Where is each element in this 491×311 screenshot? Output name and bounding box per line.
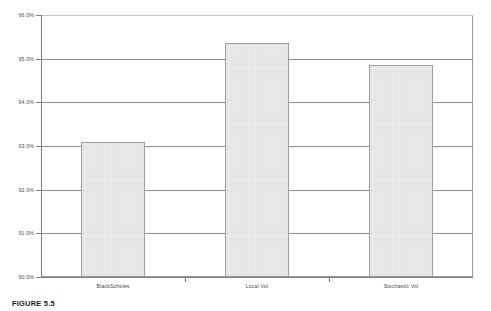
y-axis-label: 96.0% xyxy=(0,12,34,18)
bar[interactable] xyxy=(225,43,289,277)
y-axis-label: 95.0% xyxy=(0,56,34,62)
x-axis-tick xyxy=(185,278,186,282)
y-axis-label: 91.0% xyxy=(0,230,34,236)
x-axis-label: Local Vol xyxy=(246,283,268,290)
y-axis-label: 90.0% xyxy=(0,274,34,280)
figure-caption-label: FIGURE 5.5 xyxy=(12,299,55,308)
y-axis-label: 93.0% xyxy=(0,143,34,149)
figure-container: 90.0%91.0%92.0%93.0%94.0%95.0%96.0% Blac… xyxy=(0,0,491,311)
x-axis-line xyxy=(41,277,473,278)
bar-chart: 90.0%91.0%92.0%93.0%94.0%95.0%96.0% Blac… xyxy=(0,0,491,296)
y-axis-label: 92.0% xyxy=(0,187,34,193)
x-axis-label: Stochastic Vol xyxy=(384,283,419,290)
x-axis-tick xyxy=(329,278,330,282)
figure-caption: FIGURE 5.5 xyxy=(12,299,482,309)
bar[interactable] xyxy=(81,142,145,277)
x-axis-label: BlackScholes xyxy=(97,283,130,290)
bar[interactable] xyxy=(369,65,433,277)
y-axis-label: 94.0% xyxy=(0,99,34,105)
